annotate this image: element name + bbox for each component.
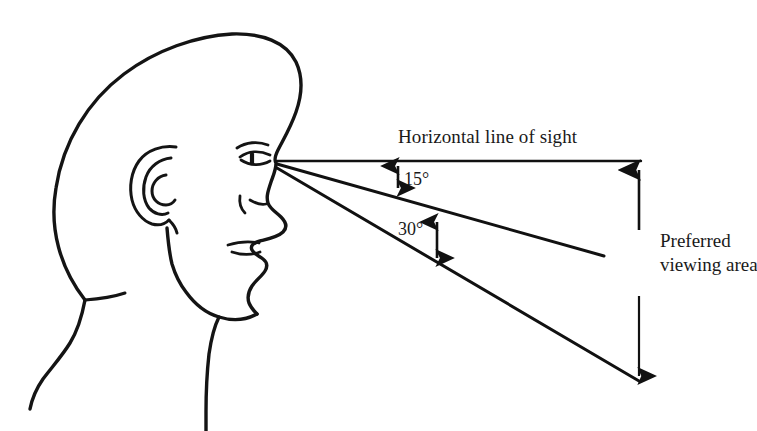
label-preferred-viewing-area: Preferred viewing area bbox=[660, 229, 757, 277]
eye-upper-lid bbox=[240, 152, 270, 157]
neck-back-line bbox=[30, 300, 85, 409]
nose-wing-line bbox=[240, 196, 245, 213]
occiput-notch bbox=[85, 293, 125, 300]
head-outline bbox=[54, 34, 301, 314]
eye-drawing bbox=[237, 143, 270, 165]
label-preferred-viewing-area-line2: viewing area bbox=[660, 253, 757, 277]
eye-lower-lid bbox=[241, 160, 270, 165]
face-details bbox=[228, 196, 266, 254]
label-horizontal-line-of-sight: Horizontal line of sight bbox=[398, 126, 577, 147]
line-drawing-svg bbox=[0, 0, 757, 431]
eye-brow bbox=[237, 143, 268, 148]
sight-lines bbox=[277, 161, 641, 381]
ear-lobe-line bbox=[169, 220, 177, 233]
neck-front-line bbox=[206, 317, 219, 431]
ray-30-degrees bbox=[277, 168, 639, 381]
figure-canvas: Horizontal line of sight 15° 30° Preferr… bbox=[0, 0, 757, 431]
label-angle-30-degrees: 30° bbox=[398, 219, 423, 239]
ray-15-degrees bbox=[277, 164, 604, 256]
ear-drawing bbox=[131, 147, 177, 233]
ear-concha bbox=[152, 175, 175, 205]
label-angle-15-degrees: 15° bbox=[404, 169, 429, 189]
label-preferred-viewing-area-line1: Preferred bbox=[660, 229, 757, 253]
lower-lip-line bbox=[232, 252, 260, 254]
nostril-line bbox=[250, 200, 266, 204]
head-profile-drawing bbox=[30, 34, 301, 431]
